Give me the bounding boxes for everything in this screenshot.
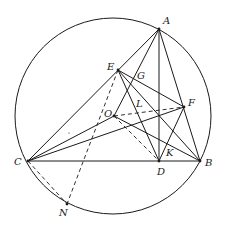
label-k: K	[165, 147, 174, 158]
point-f	[183, 106, 186, 109]
point-b	[199, 160, 202, 163]
vertex-points	[27, 28, 202, 206]
label-d: D	[156, 166, 165, 177]
segment-co	[28, 116, 114, 161]
stray-mark	[68, 132, 69, 133]
segment-od	[114, 116, 159, 161]
label-g: G	[137, 70, 145, 81]
segment-of	[114, 107, 184, 116]
point-a	[158, 28, 161, 31]
solid-segments	[28, 29, 200, 161]
label-b: B	[204, 157, 212, 168]
label-e: E	[106, 61, 115, 72]
label-a: A	[162, 15, 170, 26]
point-o	[113, 115, 116, 118]
segment-cn	[28, 161, 67, 204]
point-e	[117, 69, 120, 72]
label-n: N	[58, 207, 69, 218]
segment-ed	[118, 70, 159, 161]
point-c	[27, 160, 30, 163]
label-o: O	[104, 108, 112, 119]
geometry-diagram: ABCDEFGOLKN	[0, 0, 225, 231]
label-c: C	[14, 156, 22, 167]
point-n	[66, 203, 69, 206]
segment-ab	[159, 29, 200, 161]
label-l: L	[135, 98, 143, 109]
point-d	[158, 160, 161, 163]
label-f: F	[187, 97, 196, 108]
segment-ob	[114, 116, 200, 161]
